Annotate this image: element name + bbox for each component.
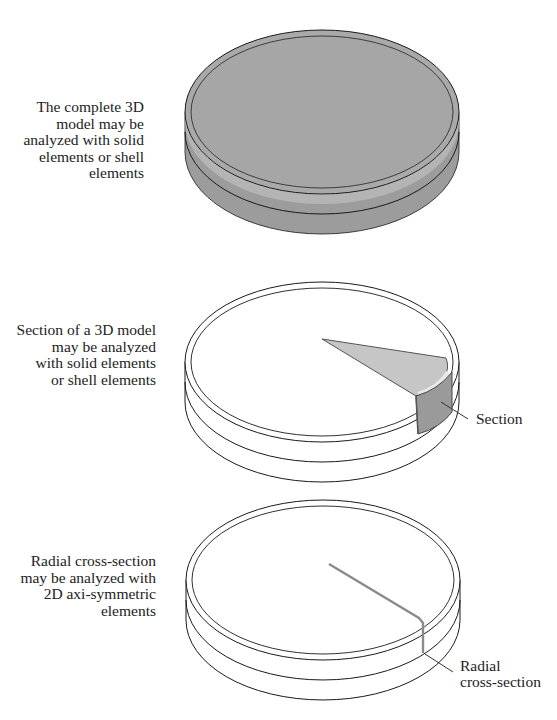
complete-disk-model <box>185 30 459 234</box>
section-disk-model <box>185 282 468 482</box>
label-section: Section <box>476 411 523 427</box>
caption-radial-cross-section: Radial cross-section may be analyzed wit… <box>20 553 156 619</box>
caption-section-model: Section of a 3D model may be analyzed wi… <box>17 322 156 388</box>
radial-disk-model <box>186 500 460 700</box>
caption-complete-model: The complete 3D model may be analyzed wi… <box>23 99 144 182</box>
label-radial-cross-section: Radial cross-section <box>460 658 541 690</box>
